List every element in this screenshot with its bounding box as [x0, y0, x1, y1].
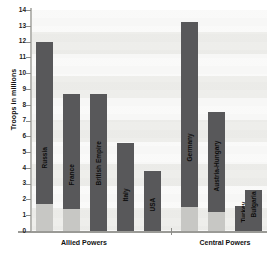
y-axis-tick-label: 8	[2, 102, 26, 109]
y-axis-tick-label: 1	[2, 212, 26, 219]
y-axis-tick	[26, 26, 31, 27]
y-axis-tick	[26, 168, 31, 169]
bar-base-segment	[36, 204, 53, 231]
group-label-allied-powers: Allied Powers	[34, 239, 134, 246]
bar-austria-hungary[interactable]: Austria-Hungary	[208, 112, 225, 231]
bars-layer: RussiaFranceBritish EmpireItalyUSAGerman…	[31, 10, 267, 231]
y-axis-tick	[26, 57, 31, 58]
y-axis-tick-label: 7	[2, 117, 26, 124]
bar-base-segment	[181, 207, 198, 231]
y-axis-tick	[26, 152, 31, 153]
bar-label: Germany	[186, 134, 193, 162]
y-axis-tick-labels: 14131211109876543210	[0, 0, 26, 232]
y-axis-tick	[26, 105, 31, 106]
y-axis-tick	[26, 73, 31, 74]
y-axis-tick-label: 3	[2, 180, 26, 187]
bar-label: Russia	[41, 147, 48, 168]
bar-base-segment	[63, 209, 80, 231]
bar-label: France	[68, 165, 75, 186]
bar-bulgaria[interactable]: Bulgaria	[245, 190, 262, 231]
bar-russia[interactable]: Russia	[36, 42, 53, 231]
y-axis-tick-label: 4	[2, 165, 26, 172]
y-axis-tick-label: 5	[2, 149, 26, 156]
y-axis-tick-label: 6	[2, 133, 26, 140]
bar-italy[interactable]: Italy	[117, 143, 134, 231]
y-axis-tick	[26, 10, 31, 11]
y-axis-tick-label: 10	[2, 70, 26, 77]
bar-france[interactable]: France	[63, 94, 80, 231]
y-axis-tick	[26, 136, 31, 137]
y-axis-tick-label: 9	[2, 86, 26, 93]
y-axis-tick-label: 0	[2, 228, 26, 235]
y-axis-tick-label: 14	[2, 7, 26, 14]
y-axis-tick-label: 13	[2, 23, 26, 30]
y-axis-tick	[26, 89, 31, 90]
y-axis-tick-label: 11	[2, 54, 26, 61]
bar-label: Italy	[122, 189, 129, 202]
bar-germany[interactable]: Germany	[181, 22, 198, 231]
bar-label: British Empire	[95, 141, 102, 185]
y-axis-tick-label: 12	[2, 38, 26, 45]
y-axis-tick	[26, 199, 31, 200]
bar-label: Bulgaria	[250, 191, 257, 217]
y-axis-tick	[26, 42, 31, 43]
group-label-central-powers: Central Powers	[175, 239, 271, 246]
bar-british-empire[interactable]: British Empire	[90, 94, 107, 231]
chart-container: Troops in millions 14131211109876543210 …	[0, 0, 271, 254]
x-axis-line	[18, 231, 267, 233]
bar-base-segment	[208, 212, 225, 231]
bar-label: Austria-Hungary	[213, 141, 220, 192]
bar-label: USA	[149, 197, 156, 211]
y-axis-tick	[26, 231, 31, 232]
y-axis-tick	[26, 184, 31, 185]
bar-usa[interactable]: USA	[144, 171, 161, 231]
y-axis-tick	[26, 215, 31, 216]
group-separator-tick	[171, 228, 172, 235]
y-axis-tick-label: 2	[2, 196, 26, 203]
y-axis-tick	[26, 121, 31, 122]
